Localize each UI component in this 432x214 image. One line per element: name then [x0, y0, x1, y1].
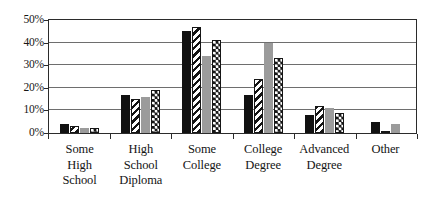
x-axis-category-label: HighSchoolDiploma — [110, 142, 171, 208]
x-axis-category-label: CollegeDegree — [233, 142, 294, 208]
bar-solid-gray-3 — [264, 43, 273, 133]
x-label-line: College — [171, 158, 232, 174]
y-tick-label: 30% — [0, 59, 44, 71]
bar-group — [355, 20, 416, 133]
x-tick-mark — [233, 134, 234, 139]
bars-layer — [49, 20, 416, 133]
y-tick-label: 50% — [0, 14, 44, 26]
x-tick-mark — [171, 134, 172, 139]
bar-solid-black-1 — [121, 95, 130, 133]
x-label-line: School — [110, 158, 171, 174]
y-tick-label: 40% — [0, 37, 44, 49]
bar-solid-black-4 — [305, 115, 314, 133]
bar-checkerboard-2 — [212, 40, 221, 133]
x-label-line: School — [49, 173, 110, 189]
bar-checkerboard-1 — [151, 90, 160, 133]
x-axis-labels: SomeHighSchoolHighSchoolDiplomaSomeColle… — [49, 142, 416, 208]
x-label-line: Other — [355, 142, 416, 158]
x-label-line: Advanced — [294, 142, 355, 158]
bar-group — [233, 20, 294, 133]
x-axis-category-label: AdvancedDegree — [294, 142, 355, 208]
bar-checkerboard-4 — [335, 113, 344, 133]
y-tick-label: 20% — [0, 82, 44, 94]
x-label-line: Diploma — [110, 173, 171, 189]
x-tick-mark — [417, 134, 418, 139]
x-label-line: High — [110, 142, 171, 158]
x-label-line: College — [233, 142, 294, 158]
bar-group — [171, 20, 232, 133]
bar-group — [49, 20, 110, 133]
x-tick-mark — [48, 134, 49, 139]
bar-diagonal-stripe-2 — [192, 27, 201, 133]
x-label-line: Some — [171, 142, 232, 158]
bar-solid-gray-1 — [141, 97, 150, 133]
bar-solid-gray-2 — [202, 56, 211, 133]
bar-solid-gray-4 — [325, 108, 334, 133]
bar-solid-black-2 — [182, 31, 191, 133]
x-label-line: Some — [49, 142, 110, 158]
bar-solid-gray-5 — [391, 124, 400, 133]
bar-diagonal-stripe-1 — [131, 99, 140, 133]
x-tick-mark — [356, 134, 357, 139]
x-axis-category-label: SomeHighSchool — [49, 142, 110, 208]
y-tick-label: 0% — [0, 127, 44, 139]
x-tick-mark — [294, 134, 295, 139]
y-tick-label: 10% — [0, 104, 44, 116]
x-axis-category-label: Other — [355, 142, 416, 208]
bar-diagonal-stripe-3 — [254, 79, 263, 133]
bar-solid-black-3 — [244, 95, 253, 133]
x-label-line: High — [49, 158, 110, 174]
bar-group — [110, 20, 171, 133]
bar-solid-black-5 — [371, 122, 380, 133]
bar-diagonal-stripe-0 — [70, 126, 79, 133]
x-label-line: Degree — [294, 158, 355, 174]
bar-diagonal-stripe-4 — [315, 106, 324, 133]
x-tick-mark — [110, 134, 111, 139]
bar-solid-black-0 — [60, 124, 69, 133]
bar-group — [294, 20, 355, 133]
x-axis-category-label: SomeCollege — [171, 142, 232, 208]
y-axis: 50%40%30%20%10%0% — [0, 0, 44, 214]
x-label-line: Degree — [233, 158, 294, 174]
bar-chart: 50%40%30%20%10%0% SomeHighSchoolHighScho… — [0, 0, 432, 214]
bar-checkerboard-3 — [274, 58, 283, 133]
